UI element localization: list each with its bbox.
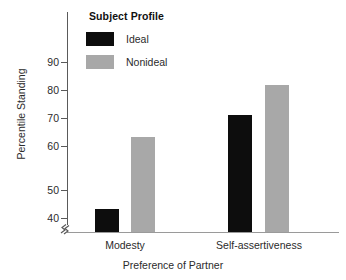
legend-label-nonideal: Nonideal	[126, 56, 167, 68]
legend-swatch-ideal	[86, 32, 114, 46]
y-tick-90	[61, 62, 67, 63]
legend-title: Subject Profile	[89, 10, 216, 22]
y-axis-line	[67, 12, 68, 225]
y-tick-label-40: 40	[37, 213, 59, 224]
y-tick-label-60: 60	[37, 141, 59, 152]
axis-break-icon	[60, 219, 76, 235]
legend-label-ideal: Ideal	[126, 33, 149, 45]
legend-item-ideal: Ideal	[86, 29, 216, 48]
y-axis-title: Percentile Standing	[15, 44, 27, 184]
x-group-label-modesty: Modesty	[75, 239, 175, 251]
x-axis-line	[67, 232, 339, 233]
y-tick-50	[61, 190, 67, 191]
y-tick-label-90: 90	[37, 57, 59, 68]
y-tick-40	[61, 218, 67, 219]
bar-self-assertiveness-nonideal	[265, 85, 289, 232]
legend-swatch-nonideal	[86, 55, 114, 69]
legend: Subject Profile Ideal Nonideal	[86, 10, 216, 75]
bar-chart-figure: 90 80 70 60 50 40 Modesty Self-assertive…	[0, 0, 346, 280]
x-axis-title: Preference of Partner	[0, 259, 346, 271]
y-tick-label-80: 80	[37, 85, 59, 96]
bar-modesty-nonideal	[131, 137, 155, 232]
bar-self-assertiveness-ideal	[228, 115, 252, 232]
y-tick-80	[61, 90, 67, 91]
legend-item-nonideal: Nonideal	[86, 52, 216, 71]
y-tick-label-50: 50	[37, 185, 59, 196]
y-tick-70	[61, 118, 67, 119]
y-tick-label-70: 70	[37, 113, 59, 124]
bar-modesty-ideal	[95, 209, 119, 232]
x-group-label-self-assertiveness: Self-assertiveness	[203, 239, 315, 251]
y-tick-60	[61, 146, 67, 147]
